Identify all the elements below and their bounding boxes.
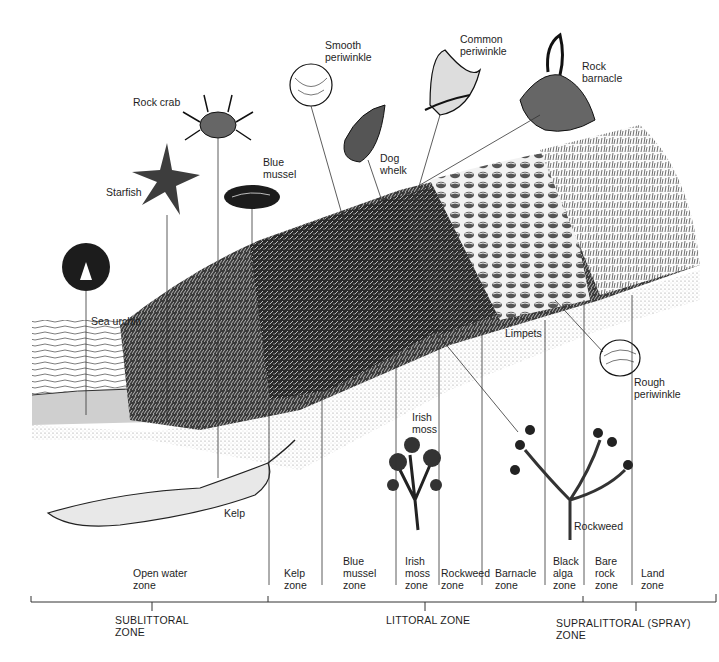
rock-crab-drawing [183, 95, 253, 140]
irish-moss-drawing [387, 437, 442, 530]
zone-label-blue-mussel: Blue mussel zone [343, 555, 376, 591]
label-rock-crab: Rock crab [133, 96, 180, 108]
dog-whelk-drawing [344, 105, 385, 162]
zone-label-black-alga: Black alga zone [553, 555, 579, 591]
starfish-drawing [132, 143, 200, 215]
label-limpets: Limpets [505, 327, 542, 339]
zone-label-open-water: Open water zone [133, 567, 187, 591]
group-label-littoral: LITTORAL ZONE [386, 614, 470, 626]
zone-label-barnacle: Barnacle zone [495, 567, 536, 591]
blue-mussel-drawing [224, 185, 280, 209]
zone-label-irish-moss: Irish moss zone [405, 555, 430, 591]
label-kelp: Kelp [224, 507, 245, 519]
label-common-periwinkle: Common periwinkle [460, 33, 507, 57]
label-dog-whelk: Dog whelk [380, 152, 407, 176]
zone-label-kelp: Kelp zone [284, 567, 307, 591]
group-label-supralittoral: SUPRALITTORAL (SPRAY) ZONE [556, 617, 691, 641]
label-rock-barnacle: Rock barnacle [582, 60, 622, 84]
zone-label-rockweed: Rockweed zone [441, 567, 490, 591]
zone-label-land: Land zone [641, 567, 664, 591]
zone-label-bare-rock: Bare rock zone [595, 555, 618, 591]
group-label-sublittoral: SUBLITTORAL ZONE [115, 614, 189, 638]
label-blue-mussel: Blue mussel [263, 156, 296, 180]
label-rough-periwinkle: Rough periwinkle [634, 376, 681, 400]
label-sea-urchin: Sea urchin [91, 315, 141, 327]
smooth-periwinkle-drawing [290, 64, 332, 106]
sea-urchin-drawing [62, 243, 110, 291]
label-smooth-periwinkle: Smooth periwinkle [325, 39, 372, 63]
label-starfish: Starfish [106, 186, 142, 198]
common-periwinkle-drawing [425, 50, 480, 115]
rough-periwinkle-drawing [600, 340, 640, 376]
label-irish-moss: Irish moss [412, 411, 437, 435]
zone-axis [31, 594, 716, 611]
label-rockweed: Rockweed [574, 520, 623, 532]
